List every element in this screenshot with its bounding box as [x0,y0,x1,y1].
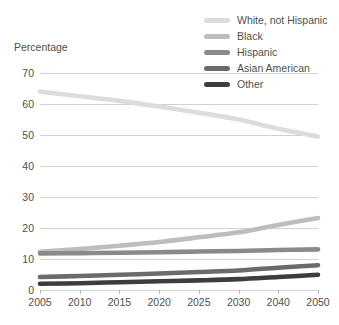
legend-swatch-icon [204,18,230,23]
x-axis-tick-label: 2005 [28,297,51,308]
x-axis-tick-mark [239,290,240,294]
y-axis-tick-label: 40 [22,161,34,172]
legend-swatch-icon [204,34,230,39]
gridline [40,290,318,291]
x-axis-tick-mark [278,290,279,294]
legend-label: Asian American [237,63,310,74]
y-axis-tick-label: 60 [22,99,34,110]
y-axis-title: Percentage [14,41,68,53]
legend-item-black: Black [204,28,327,44]
x-axis-tick-label: 2030 [227,297,250,308]
x-axis-tick-label: 2050 [306,297,329,308]
x-axis-tick-mark [199,290,200,294]
x-axis-tick-mark [159,290,160,294]
legend-swatch-icon [204,50,230,55]
y-axis-tick-label: 0 [28,285,34,296]
series-line-hispanic [40,218,318,252]
legend-item-white-not-hispanic: White, not Hispanic [204,12,327,28]
y-axis-tick-label: 70 [22,68,34,79]
legend-label: Black [237,31,263,42]
x-axis-tick-label: 2015 [108,297,131,308]
x-axis-tick-label: 2040 [267,297,290,308]
series-lines [40,73,318,290]
x-axis-tick-mark [119,290,120,294]
x-axis-tick-mark [80,290,81,294]
legend-label: White, not Hispanic [237,15,327,26]
legend-swatch-icon [204,66,230,71]
y-axis-tick-label: 30 [22,192,34,203]
y-axis-tick-label: 20 [22,223,34,234]
x-axis-tick-mark [40,290,41,294]
series-line-white-not-hispanic [40,92,318,137]
y-axis-tick-label: 10 [22,254,34,265]
x-axis-tick-label: 2010 [68,297,91,308]
y-axis-tick-label: 50 [22,130,34,141]
population-projection-chart: White, not Hispanic Black Hispanic Asian… [0,0,339,325]
x-axis-tick-mark [318,290,319,294]
legend-item-hispanic: Hispanic [204,44,327,60]
legend-label: Hispanic [237,47,277,58]
x-axis-tick-label: 2020 [147,297,170,308]
x-axis-tick-label: 2025 [187,297,210,308]
plot-area: 010203040506070 200520102015202020252030… [40,73,318,290]
